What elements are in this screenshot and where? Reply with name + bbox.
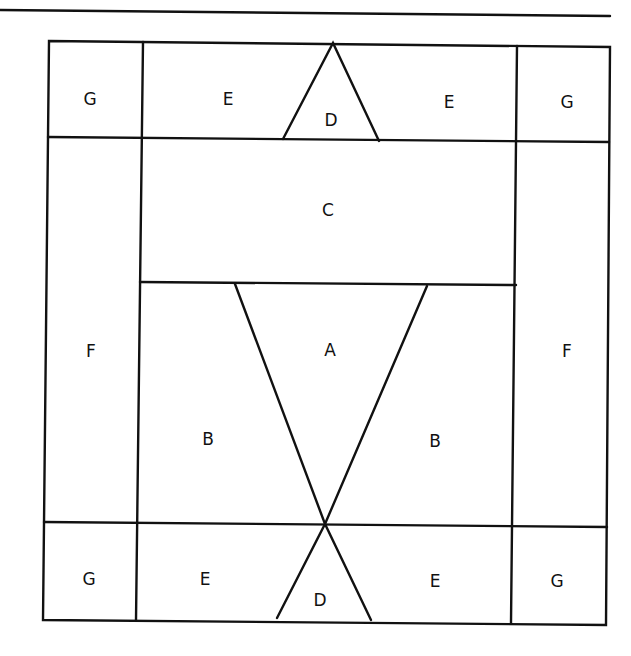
label-bottom-right-g: G	[550, 571, 563, 591]
c-bottom-divider	[140, 282, 516, 285]
label-bottom-left-e: E	[200, 569, 211, 589]
label-left-b: B	[202, 429, 214, 449]
label-a: A	[324, 340, 336, 360]
label-c: C	[322, 200, 334, 220]
left-vertical-divider	[136, 42, 143, 620]
top-row-divider	[48, 137, 609, 142]
label-bottom-right-e: E	[430, 571, 441, 591]
right-vertical-divider	[511, 46, 517, 623]
label-bottom-left-g: G	[82, 569, 95, 589]
label-top-left-e: E	[223, 89, 234, 109]
a-triangle	[235, 284, 427, 524]
label-right-b: B	[429, 431, 441, 451]
label-right-f: F	[562, 341, 572, 361]
label-bottom-d: D	[313, 590, 326, 610]
label-top-d: D	[324, 110, 337, 130]
label-top-right-g: G	[560, 92, 573, 112]
label-top-left-g: G	[83, 89, 96, 109]
label-top-right-e: E	[444, 92, 455, 112]
page-top-rule	[0, 10, 610, 16]
quilt-block-diagram: G E D E G C F A F B B G E D E G	[0, 0, 631, 656]
label-left-f: F	[86, 341, 96, 361]
